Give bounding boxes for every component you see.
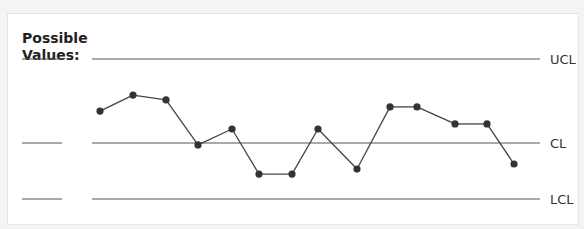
series-segment [487, 124, 514, 164]
data-point [129, 92, 136, 99]
data-point [353, 165, 360, 172]
data-point [228, 125, 235, 132]
series-segment [417, 107, 455, 124]
data-point [314, 125, 321, 132]
control-chart: UCLCLLCL [0, 0, 584, 229]
cl-label: CL [550, 136, 567, 151]
series-segment [166, 100, 198, 145]
data-point [194, 141, 201, 148]
data-point [413, 103, 420, 110]
data-point [96, 107, 103, 114]
series-segment [100, 95, 133, 111]
lcl-label: LCL [550, 192, 574, 207]
series-segment [318, 129, 357, 169]
data-point [255, 170, 262, 177]
data-point [386, 103, 393, 110]
series-segment [292, 129, 318, 174]
series-segment [133, 95, 166, 100]
data-point [451, 120, 458, 127]
series-segment [232, 129, 259, 174]
series-segment [357, 107, 390, 169]
data-point [288, 170, 295, 177]
ucl-label: UCL [550, 52, 577, 67]
data-point [162, 96, 169, 103]
data-point [483, 120, 490, 127]
data-point [510, 160, 517, 167]
